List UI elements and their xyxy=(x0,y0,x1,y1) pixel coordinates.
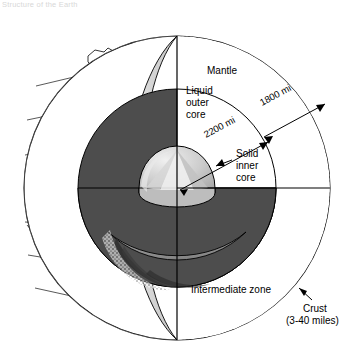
label-liquid-outer-core-2: outer xyxy=(186,97,209,108)
earth-diagram-svg: Mantle Liquid outer core Solid inner cor… xyxy=(0,0,354,358)
earth-cutaway-figure: Structure of the Earth xyxy=(0,0,354,358)
label-liquid-outer-core-3: core xyxy=(186,109,206,120)
label-solid-inner-core-1: Solid xyxy=(236,148,258,159)
label-intermediate-zone: Intermediate zone xyxy=(191,284,271,295)
label-crust-2: (3-40 miles) xyxy=(286,315,339,326)
label-mantle: Mantle xyxy=(207,65,237,76)
label-solid-inner-core-3: core xyxy=(236,172,256,183)
label-crust-1: Crust xyxy=(303,303,327,314)
label-solid-inner-core-2: inner xyxy=(236,160,259,171)
label-liquid-outer-core-1: Liquid xyxy=(186,85,213,96)
